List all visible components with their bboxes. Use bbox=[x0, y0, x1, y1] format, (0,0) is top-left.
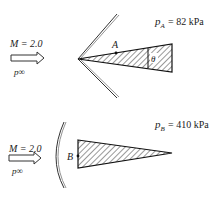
pressure-b-value: = 410 kPa bbox=[168, 119, 209, 130]
blunt-body bbox=[78, 140, 172, 168]
freestream-pressure-bottom: p∞ bbox=[11, 166, 23, 176]
freestream-pressure-top: p∞ bbox=[13, 67, 25, 77]
bow-shock bbox=[56, 122, 66, 188]
mach-label-top: M = 2.0 bbox=[9, 38, 43, 49]
wedge-angle-label: θ bbox=[151, 54, 156, 64]
point-b-label: B bbox=[67, 151, 73, 162]
bottom-scenario: pB = 410 kPa M = 2.0 p∞ B bbox=[8, 118, 209, 188]
point-a-marker bbox=[115, 52, 118, 55]
point-b-marker bbox=[77, 155, 80, 158]
pressure-b-symbol: pB bbox=[154, 118, 166, 133]
top-scenario: pA = 82 kPa M = 2.0 p∞ θ A bbox=[9, 14, 204, 98]
flow-arrow-top-icon bbox=[11, 52, 44, 64]
mach-label-bottom: M = 2.0 bbox=[8, 143, 42, 154]
pressure-a-value: = 82 kPa bbox=[168, 16, 204, 27]
pressure-a-symbol: pA bbox=[154, 15, 166, 30]
oblique-shock-upper bbox=[78, 14, 119, 59]
point-a-label: A bbox=[111, 39, 119, 50]
diagram-canvas: pA = 82 kPa M = 2.0 p∞ θ A pB = 410 kPa bbox=[0, 0, 217, 198]
oblique-shock-lower bbox=[78, 59, 119, 98]
